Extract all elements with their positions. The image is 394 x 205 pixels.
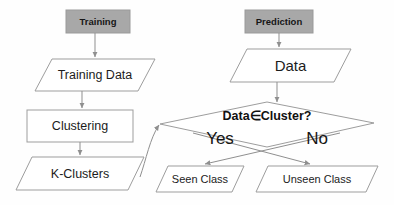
training-header-box: [66, 10, 130, 33]
seen-class-shape: [156, 166, 244, 192]
unseen-class-shape: [256, 166, 378, 192]
training-data-shape: [35, 59, 155, 91]
decision-diamond-shape: [160, 102, 374, 147]
prediction-header-box: [245, 10, 313, 33]
connector-k-clusters-to-decision: [140, 125, 159, 177]
data-shape: [230, 49, 351, 82]
flowchart-diagram: Training Prediction Training Data Cluste…: [0, 0, 394, 205]
flowchart-canvas: [0, 0, 394, 205]
k-clusters-shape: [16, 157, 144, 190]
clustering-shape: [27, 110, 133, 142]
